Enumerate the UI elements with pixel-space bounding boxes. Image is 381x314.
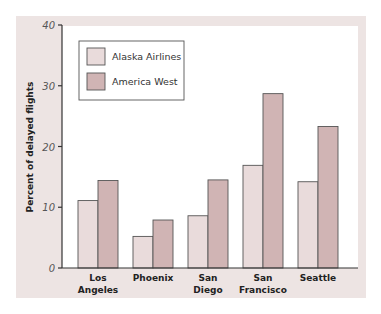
- bar-alaska-airlines-san-francisco: [243, 165, 263, 268]
- x-tick-label: San: [254, 273, 273, 283]
- y-tick-label: 40: [42, 20, 55, 31]
- bar-america-west-los-angeles: [98, 181, 118, 268]
- x-tick-label: Diego: [193, 285, 222, 295]
- x-tick-label: Los: [89, 273, 106, 283]
- legend: Alaska AirlinesAmerica West: [79, 41, 184, 100]
- bar-america-west-san-diego: [208, 180, 228, 268]
- bar-alaska-airlines-san-diego: [188, 216, 208, 268]
- legend-label: America West: [112, 76, 178, 87]
- y-tick-label: 30: [42, 81, 55, 92]
- x-tick-label: San: [199, 273, 218, 283]
- x-tick-label: Angeles: [78, 285, 118, 295]
- bar-chart: LosAngelesPhoenixSanDiegoSanFranciscoSea…: [0, 0, 381, 314]
- legend-label: Alaska Airlines: [112, 51, 181, 62]
- legend-swatch: [87, 48, 105, 65]
- y-tick-label: 10: [42, 202, 55, 213]
- y-tick-label: 0: [49, 263, 55, 274]
- bar-america-west-phoenix: [153, 220, 173, 268]
- y-axis-label: Percent of delayed flights: [25, 82, 35, 213]
- legend-swatch: [87, 73, 105, 90]
- x-tick-label: Seattle: [300, 273, 336, 283]
- bar-alaska-airlines-los-angeles: [78, 201, 98, 268]
- y-tick-label: 20: [42, 142, 55, 153]
- x-tick-label: Phoenix: [133, 273, 174, 283]
- bar-america-west-san-francisco: [263, 94, 283, 268]
- bar-alaska-airlines-phoenix: [133, 236, 153, 268]
- bar-america-west-seattle: [318, 126, 338, 268]
- x-tick-label: Francisco: [239, 285, 287, 295]
- bar-alaska-airlines-seattle: [298, 182, 318, 268]
